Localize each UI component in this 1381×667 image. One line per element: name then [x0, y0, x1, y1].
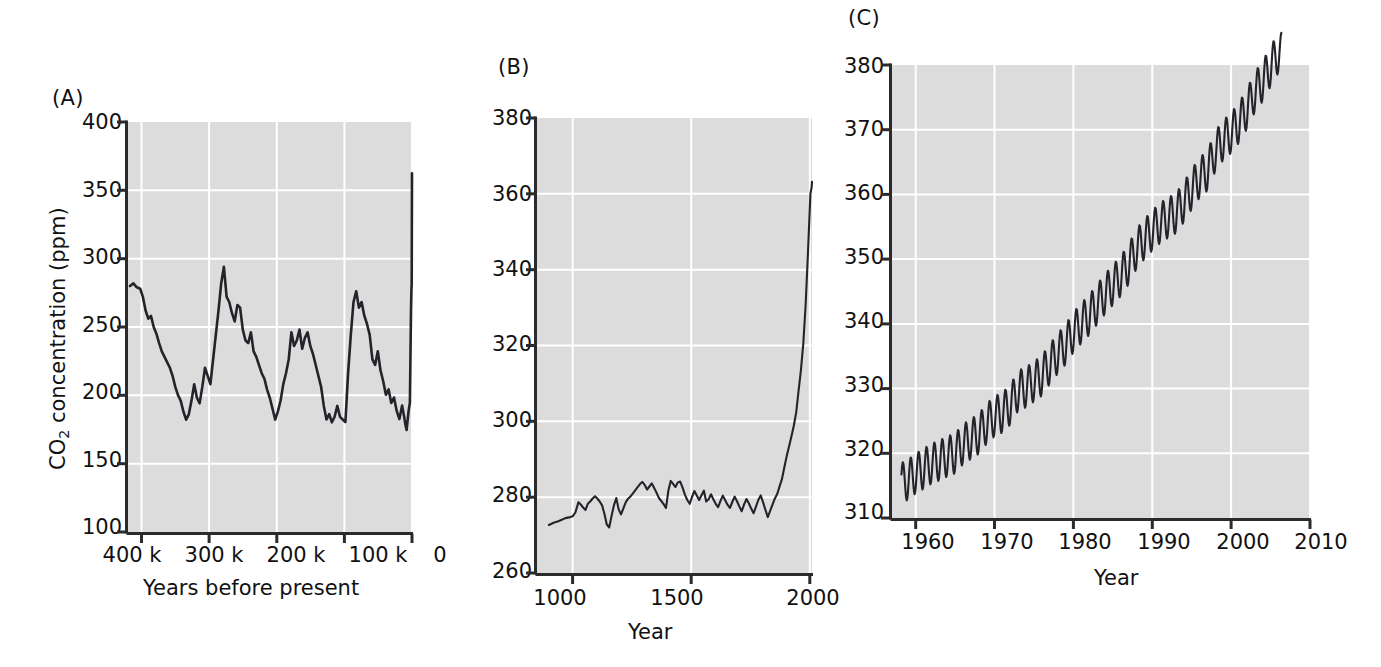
panel-a-xtick-0: 0: [418, 543, 462, 567]
panel-c-xtick-1990: 1990: [1126, 530, 1202, 554]
panel-b-ytick-260: 260: [484, 559, 532, 583]
panel-c-ytick-350: 350: [836, 245, 884, 269]
panel-a-y-axis-label: CO2 concentration (ppm): [46, 207, 72, 470]
panel-b-xtick-1000: 1000: [522, 586, 598, 610]
y-axis-label-text: CO2 concentration (ppm): [46, 207, 70, 470]
panel-a-ytick-400: 400: [78, 110, 122, 134]
panel-b-ytick-280: 280: [484, 483, 532, 507]
panel-c-ytick-320: 320: [836, 437, 884, 461]
panel-c-ytick-310: 310: [836, 500, 884, 524]
panel-b-x-axis-label: Year: [628, 620, 672, 644]
panel-a-plot: [128, 122, 412, 532]
panel-b-ytick-340: 340: [484, 257, 532, 281]
panel-c-ytick-380: 380: [836, 54, 884, 78]
panel-b: (B) 380 360 340 320 300 280 260 1000 150…: [480, 0, 850, 640]
panel-a-xtick-400k: 400 k: [90, 543, 174, 567]
panel-c: (C) 380 370 360 350 340 330 320 310 1960…: [830, 0, 1381, 640]
panel-a-ytick-250: 250: [78, 313, 122, 337]
panel-b-plot: [537, 118, 812, 573]
panel-a-ytick-300: 300: [78, 245, 122, 269]
panel-c-x-axis-label: Year: [1094, 566, 1138, 590]
panel-a-ytick-100: 100: [78, 515, 122, 539]
panel-a-ytick-200: 200: [78, 380, 122, 404]
panel-c-xtick-1980: 1980: [1047, 530, 1123, 554]
panel-a-ytick-350: 350: [78, 178, 122, 202]
panel-b-ytick-320: 320: [484, 332, 532, 356]
panel-b-ytick-360: 360: [484, 182, 532, 206]
panel-b-ytick-380: 380: [484, 106, 532, 130]
panel-c-ytick-330: 330: [836, 373, 884, 397]
panel-c-xtick-1970: 1970: [969, 530, 1045, 554]
panel-c-xtick-1960: 1960: [890, 530, 966, 554]
panel-a-xtick-200k: 200 k: [254, 543, 338, 567]
panel-c-plot: [892, 65, 1310, 518]
panel-a-ytick-150: 150: [78, 448, 122, 472]
panel-b-letter: (B): [498, 55, 530, 79]
panel-a-xtick-100k: 100 k: [336, 543, 420, 567]
panel-a: (A) CO2 concentration (ppm) 400 350 300 …: [0, 0, 480, 620]
panel-a-letter: (A): [52, 86, 84, 110]
panel-c-ytick-360: 360: [836, 181, 884, 205]
panel-b-ytick-300: 300: [484, 408, 532, 432]
panel-c-xtick-2000: 2000: [1205, 530, 1281, 554]
panel-c-letter: (C): [848, 6, 880, 30]
panel-a-x-axis-label: Years before present: [143, 576, 359, 600]
panel-b-xtick-1500: 1500: [639, 586, 715, 610]
panel-a-xtick-300k: 300 k: [172, 543, 256, 567]
panel-c-xtick-2010: 2010: [1283, 530, 1359, 554]
panel-c-ytick-370: 370: [836, 117, 884, 141]
panel-c-ytick-340: 340: [836, 309, 884, 333]
